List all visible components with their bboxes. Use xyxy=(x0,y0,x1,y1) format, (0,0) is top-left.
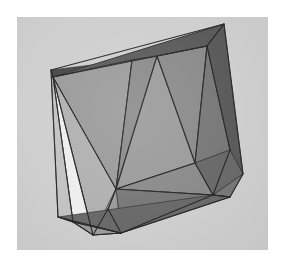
polyhedron-mesh xyxy=(17,17,268,250)
render-viewport xyxy=(17,17,268,250)
screenshot-root xyxy=(0,0,286,273)
mesh-faces-group xyxy=(51,24,243,235)
